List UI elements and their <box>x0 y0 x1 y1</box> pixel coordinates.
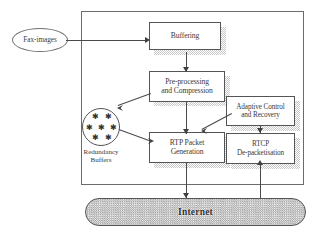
source-node-fax-images[interactable]: Fax-images <box>12 28 68 52</box>
redundancy-label-line1: Redundancy <box>84 148 119 156</box>
connector-internet-to-rtcp <box>260 163 261 198</box>
adaptive-label: Adaptive Control and Recovery <box>234 103 287 119</box>
redundancy-label-line2: Buffers <box>91 156 112 164</box>
asterisk-icon: ✱ <box>86 125 92 131</box>
asterisk-icon: ✱ <box>92 135 98 141</box>
adaptive-label-line2: and Recovery <box>241 111 280 119</box>
asterisk-icon: ✱ <box>105 135 111 141</box>
process-box-adaptive-control[interactable]: Adaptive Control and Recovery <box>226 96 295 126</box>
rtcp-label: RTCP De-packetisation <box>235 140 286 156</box>
rtcp-label-line1: RTCP <box>252 140 269 148</box>
process-box-buffering[interactable]: Buffering <box>149 22 221 50</box>
diagram-canvas: Fax-images Buffering Pre-processing and … <box>0 0 321 240</box>
connector-fax-to-buffering <box>66 40 148 41</box>
internet-label: Internet <box>178 207 213 217</box>
source-node-label: Fax-images <box>23 36 57 44</box>
buffering-label: Buffering <box>169 32 202 41</box>
asterisk-icon: ✱ <box>110 125 116 131</box>
arrowhead-buffering-to-preprocessing <box>183 67 189 72</box>
adaptive-label-line1: Adaptive Control <box>236 103 285 111</box>
arrowhead-adaptive-to-rtcp <box>257 128 263 133</box>
arrowhead-internet-to-rtcp <box>257 160 263 165</box>
process-box-preprocessing[interactable]: Pre-processing and Compression <box>149 71 225 102</box>
rtcp-label-line2: De-packetisation <box>237 149 284 157</box>
preprocessing-label: Pre-processing and Compression <box>159 78 214 95</box>
network-internet[interactable]: Internet <box>85 198 306 226</box>
asterisk-icon: ✱ <box>105 114 111 120</box>
redundancy-buffers-label: Redundancy Buffers <box>73 148 129 164</box>
rtp-label-line2: Generation <box>171 147 204 156</box>
arrowhead-preprocessing-to-rtp <box>183 129 189 134</box>
arrowhead-rtp-to-internet <box>183 193 189 198</box>
asterisk-icon: ✱ <box>92 114 98 120</box>
asterisk-icon: ✱ <box>98 125 104 131</box>
process-box-rtp-packet-generation[interactable]: RTP Packet Generation <box>149 132 225 163</box>
arrowhead-fax-to-buffering <box>145 37 150 43</box>
preprocessing-label-line2: and Compression <box>161 86 212 95</box>
rtp-label: RTP Packet Generation <box>168 139 206 156</box>
redundancy-buffers-circle[interactable]: ✱ ✱ ✱ ✱ ✱ ✱ ✱ <box>82 108 120 146</box>
